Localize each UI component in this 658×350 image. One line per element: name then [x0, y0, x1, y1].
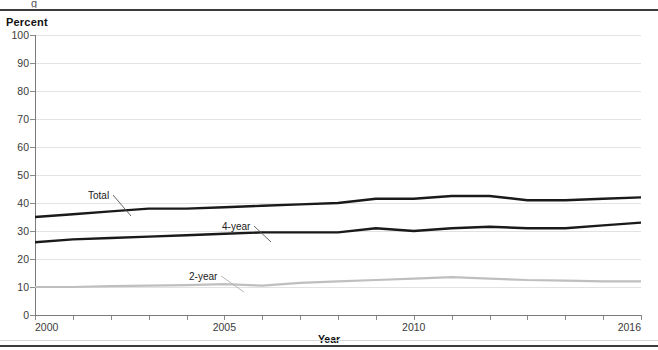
annotation-leader-total — [112, 194, 132, 217]
annotation-label-4-year: 4-year — [222, 221, 250, 232]
x-tick-mark — [641, 315, 642, 320]
bottom-divider-light — [0, 340, 658, 341]
annotation-leader-4-year — [253, 225, 272, 243]
y-tick-label: 50 — [0, 169, 29, 181]
y-tick-label: 20 — [0, 253, 29, 265]
chart-page: g Percent 0102030405060708090100 2000200… — [0, 0, 658, 350]
x-tick-label: 2005 — [213, 321, 236, 333]
top-divider-rule — [0, 9, 658, 11]
x-tick-label: 2000 — [35, 321, 58, 333]
series-line-4-year — [35, 223, 641, 243]
annotation-leader-2-year — [220, 275, 245, 293]
bottom-divider-rule — [0, 345, 658, 347]
y-tick-label: 70 — [0, 113, 29, 125]
y-tick-label: 90 — [0, 57, 29, 69]
y-axis-title: Percent — [6, 16, 48, 28]
y-tick-label: 30 — [0, 225, 29, 237]
y-tick-label: 80 — [0, 85, 29, 97]
y-tick-label: 100 — [0, 29, 29, 41]
x-axis-title: Year — [0, 333, 658, 345]
y-tick-label: 10 — [0, 281, 29, 293]
series-line-2-year — [35, 277, 641, 287]
y-tick-label: 60 — [0, 141, 29, 153]
x-tick-label: 2016 — [618, 321, 641, 333]
series-lines — [35, 35, 641, 316]
clipped-title-descender: g — [31, 0, 41, 8]
x-tick-label: 2010 — [402, 321, 425, 333]
annotation-label-2-year: 2-year — [189, 271, 217, 282]
y-tick-label: 40 — [0, 197, 29, 209]
y-tick-label: 0 — [0, 309, 29, 321]
annotation-label-total: Total — [88, 190, 109, 201]
